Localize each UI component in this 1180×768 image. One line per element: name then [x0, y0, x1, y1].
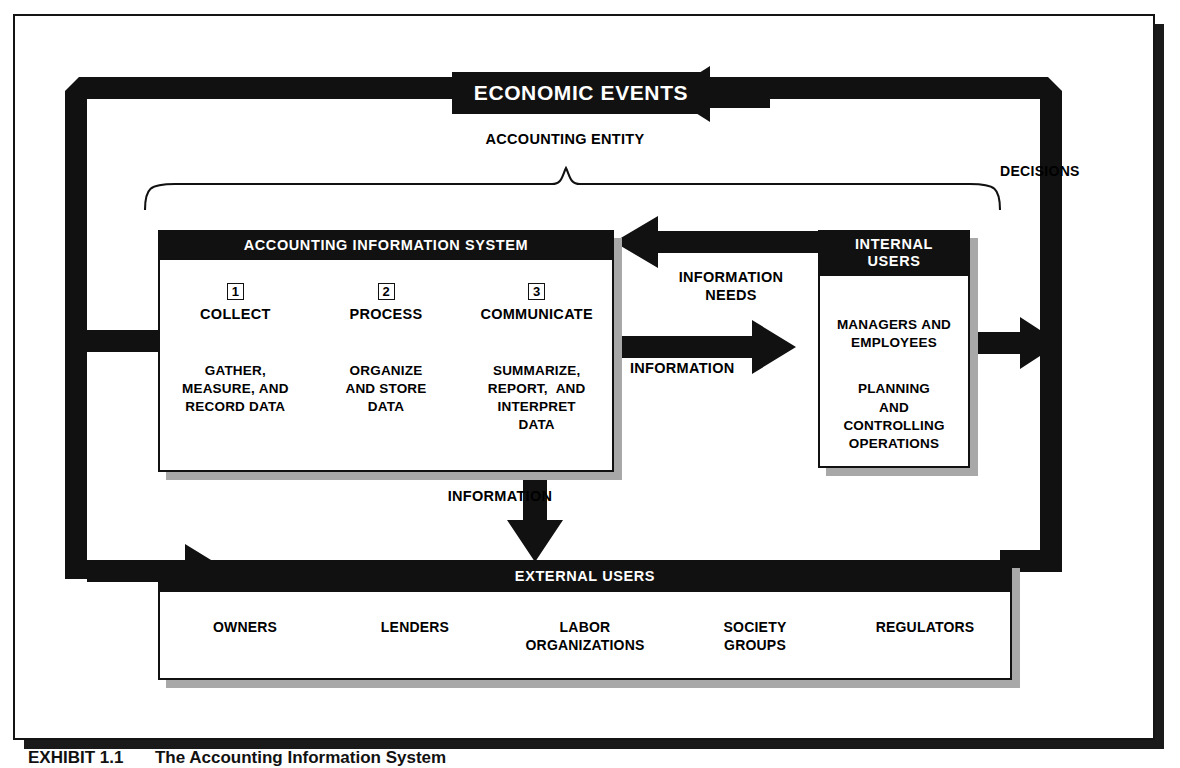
label-information-to-internal-users: INFORMATION — [630, 360, 810, 376]
external-user-group[interactable]: OWNERS — [160, 618, 330, 636]
step-verb: COMMUNICATE — [480, 306, 593, 322]
internal-users-roles: MANAGERS ANDEMPLOYEES — [837, 316, 951, 352]
external-users-groups: OWNERS LENDERS LABORORGANIZATIONS SOCIET… — [160, 594, 1010, 678]
label-decisions: DECISIONS — [1000, 163, 1150, 179]
figure-caption-label: EXHIBIT 1.1 — [28, 748, 123, 767]
figure-caption: EXHIBIT 1.1 The Accounting Information S… — [28, 748, 446, 768]
step-description: SUMMARIZE,REPORT, ANDINTERPRETDATA — [488, 362, 586, 434]
external-user-group[interactable]: LABORORGANIZATIONS — [500, 618, 670, 655]
internal-users-header: INTERNAL USERS — [818, 230, 970, 276]
node-economic-events[interactable]: ECONOMIC EVENTS — [452, 72, 710, 114]
step-number-badge: 2 — [378, 283, 395, 300]
internal-users-activities: PLANNINGANDCONTROLLINGOPERATIONS — [843, 380, 944, 453]
economic-events-title: ECONOMIC EVENTS — [474, 81, 688, 105]
step-verb: COLLECT — [200, 306, 271, 322]
figure-caption-title: The Accounting Information System — [155, 748, 446, 767]
label-information-to-external-users: INFORMATION — [400, 488, 600, 504]
label-information-needs: INFORMATIONNEEDS — [638, 269, 824, 304]
internal-users-title-line1: INTERNAL — [855, 236, 933, 253]
internal-users-body: MANAGERS ANDEMPLOYEES PLANNINGANDCONTROL… — [820, 280, 968, 466]
ais-header: ACCOUNTING INFORMATION SYSTEM — [158, 230, 614, 260]
step-verb: PROCESS — [350, 306, 423, 322]
step-description: ORGANIZEAND STOREDATA — [345, 362, 426, 416]
external-user-group[interactable]: SOCIETYGROUPS — [670, 618, 840, 655]
ais-step-2[interactable]: 2 PROCESS ORGANIZEAND STOREDATA — [311, 262, 462, 470]
ais-step-1[interactable]: 1 COLLECT GATHER,MEASURE, ANDRECORD DATA — [160, 262, 311, 470]
step-description: GATHER,MEASURE, ANDRECORD DATA — [182, 362, 289, 416]
step-number-badge: 3 — [528, 283, 545, 300]
internal-users-title-line2: USERS — [868, 253, 921, 270]
ais-title: ACCOUNTING INFORMATION SYSTEM — [244, 237, 529, 253]
ais-step-3[interactable]: 3 COMMUNICATE SUMMARIZE,REPORT, ANDINTER… — [461, 262, 612, 470]
external-users-title: EXTERNAL USERS — [515, 568, 655, 584]
ais-steps: 1 COLLECT GATHER,MEASURE, ANDRECORD DATA… — [160, 262, 612, 470]
external-user-group[interactable]: REGULATORS — [840, 618, 1010, 636]
external-users-header: EXTERNAL USERS — [158, 560, 1012, 592]
external-user-group[interactable]: LENDERS — [330, 618, 500, 636]
step-number-badge: 1 — [227, 283, 244, 300]
label-accounting-entity: ACCOUNTING ENTITY — [405, 131, 725, 147]
